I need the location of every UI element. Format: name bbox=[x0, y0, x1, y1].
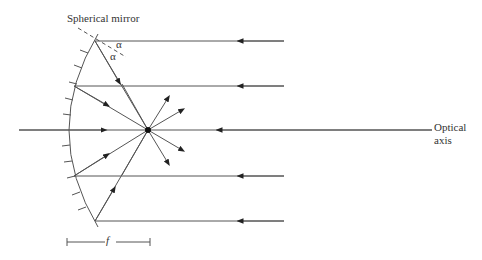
mirror-label: Spherical mirror bbox=[67, 12, 139, 25]
focal-length-label: f bbox=[106, 234, 109, 247]
spherical-mirror-diagram bbox=[0, 0, 482, 260]
focal-point bbox=[145, 127, 151, 133]
angle-label-2: α bbox=[110, 50, 116, 63]
optical-axis-label-line2: axis bbox=[434, 134, 452, 147]
angle-label-1: α bbox=[116, 38, 122, 51]
optical-axis-label-line1: Optical bbox=[434, 121, 466, 134]
